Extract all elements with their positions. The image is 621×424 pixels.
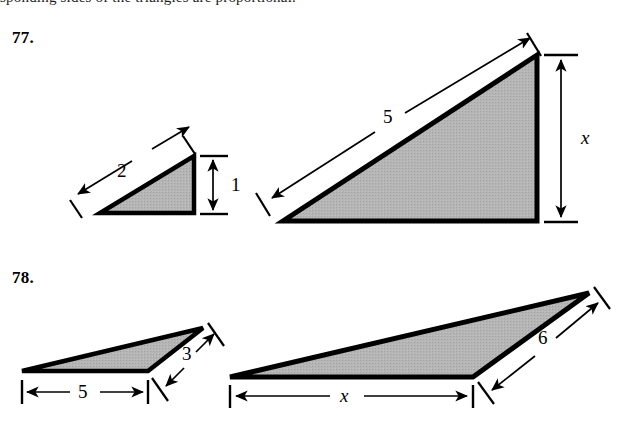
p77-large-triangle-shape xyxy=(283,55,537,221)
p77-large-hyp-tick-right xyxy=(527,33,541,56)
p78-small-base-label: 5 xyxy=(78,381,88,403)
p77-small-triangle-shape xyxy=(100,156,194,213)
p78-large-side-label: 6 xyxy=(538,327,548,349)
p78-large-triangle-shape xyxy=(230,293,589,377)
p78-small-triangle-shape xyxy=(22,328,203,371)
p78-small-side-label: 3 xyxy=(182,343,192,365)
p78-small-triangle xyxy=(22,323,224,404)
p77-large-vertical-label: x xyxy=(581,127,589,149)
p78-small-side-arrow-bottom xyxy=(166,368,184,386)
geometry-figures-svg xyxy=(0,0,621,424)
p78-small-side-arrow-top xyxy=(196,334,214,352)
p77-small-hyp-tick-right xyxy=(183,136,195,154)
p78-large-base-label: x xyxy=(340,385,348,407)
p77-large-triangle xyxy=(256,33,578,222)
p77-small-hyp-tick-left xyxy=(70,200,82,218)
p77-large-hypotenuse-label: 5 xyxy=(383,106,393,128)
p78-large-triangle xyxy=(230,287,610,408)
figure-page: sponding sides of the triangles are prop… xyxy=(0,0,621,424)
p77-small-hypotenuse-label: 2 xyxy=(117,160,127,182)
p78-small-side-tick-bottom xyxy=(152,378,168,401)
p78-large-side-tick-top xyxy=(594,287,610,309)
p78-small-side-tick-top xyxy=(208,323,224,346)
p77-large-hyp-tick-left xyxy=(256,193,270,216)
p78-large-side-tick-bottom xyxy=(478,382,494,404)
p77-small-vertical-label: 1 xyxy=(231,174,241,196)
p77-small-triangle xyxy=(70,127,228,218)
